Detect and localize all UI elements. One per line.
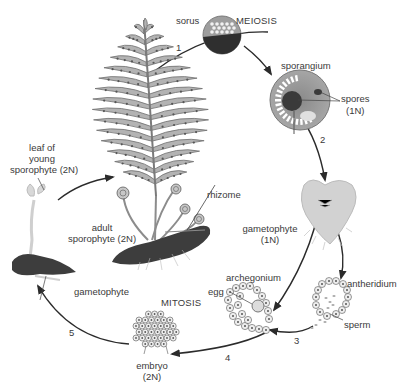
- pinna-right: [150, 108, 208, 120]
- small-gametophyte: [12, 254, 76, 275]
- sorus-dot: [103, 100, 105, 102]
- embryo: [133, 311, 179, 354]
- sorus-dot: [140, 136, 142, 138]
- adult-fern-frond: [92, 18, 208, 196]
- sperm-cell: [324, 297, 327, 299]
- label-leaf-line2: young: [10, 153, 74, 164]
- sorus-dot: [128, 37, 130, 39]
- sorus-dot: [167, 47, 169, 49]
- pinna-left: [104, 66, 147, 77]
- sorus-dot: [174, 58, 176, 60]
- sorus-dot: [161, 126, 163, 128]
- label-rhizome: rhizome: [207, 189, 241, 200]
- sorus-dot: [194, 100, 196, 102]
- label-leaf-line1: leaf of: [10, 142, 74, 153]
- pinna-left: [92, 108, 150, 120]
- pinna-left: [126, 35, 145, 45]
- gametophyte-heart: [301, 180, 356, 250]
- sorus-dot: [186, 79, 188, 81]
- pinna-left: [110, 56, 146, 67]
- label-adult-line1: adult: [62, 222, 142, 233]
- label-sorus: sorus: [176, 15, 199, 26]
- sorus-dot: [127, 124, 129, 126]
- sorus-dot: [169, 166, 171, 168]
- arrow-step-4: [172, 333, 265, 354]
- egg-cell: [252, 300, 264, 312]
- archegonium: [224, 282, 272, 333]
- label-spores-ploidy: (1N): [346, 105, 364, 116]
- pinna-left: [95, 87, 149, 98]
- sorus-dot: [182, 143, 184, 145]
- sperm-cell: [310, 327, 313, 329]
- sorus-dot: [132, 38, 134, 40]
- arrow-meiosis-to-sporangium: [244, 46, 271, 74]
- sorus-dot: [115, 122, 117, 124]
- pinna-right: [148, 77, 197, 88]
- sporangium: [270, 70, 340, 134]
- spore-dot: [225, 22, 229, 26]
- sorus-dot: [141, 147, 143, 149]
- step-number-1: 1: [176, 42, 181, 53]
- spore-dot: [225, 30, 229, 34]
- label-gametophyte-line1: gametophyte: [235, 223, 305, 234]
- sorus-dot: [173, 124, 175, 126]
- sorus-dot: [137, 166, 139, 168]
- sorus-dot: [160, 104, 162, 106]
- label-adult-sporophyte: adult sporophyte (2N): [62, 222, 142, 244]
- sorus-dot: [155, 72, 157, 74]
- sorus-dot: [137, 104, 139, 106]
- sorus-dot: [138, 62, 140, 64]
- sorus-dot: [136, 39, 138, 41]
- spore-dot: [212, 26, 216, 30]
- sorus-dot: [133, 50, 135, 52]
- sorus-dot: [131, 60, 133, 62]
- fern-life-cycle-diagram: sorus MEIOSIS sporangium spores (1N) lea…: [0, 0, 409, 392]
- pinna-right: [152, 129, 207, 141]
- spore-dot: [227, 26, 231, 30]
- sorus-dot: [167, 59, 169, 61]
- annulus-cell: [275, 99, 281, 101]
- sorus-dot: [172, 113, 174, 115]
- sorus-dot: [138, 126, 140, 128]
- sorus-dot: [155, 38, 157, 40]
- sorus-dot: [161, 168, 163, 170]
- sorus-dot: [193, 141, 195, 143]
- spore-dot: [220, 30, 224, 34]
- sorus-dot: [180, 91, 182, 93]
- sperm-cell: [331, 304, 334, 306]
- sorus-dot: [177, 164, 179, 166]
- sorus-dot: [126, 113, 128, 115]
- sorus-dot: [191, 89, 193, 91]
- sorus-dot: [126, 92, 128, 94]
- sorus-dot: [148, 179, 150, 181]
- step-number-2: 2: [320, 134, 325, 145]
- sorus-dot: [159, 37, 161, 39]
- sorus-dot: [120, 69, 122, 71]
- sorus-dot: [184, 122, 186, 124]
- sorus-dot: [103, 110, 105, 112]
- label-adult-line2: sporophyte (2N): [62, 233, 142, 244]
- sorus-dot: [105, 89, 107, 91]
- diagram-artwork: [0, 0, 409, 392]
- sorus-dot: [110, 141, 112, 143]
- sperm-cell: [326, 307, 329, 309]
- sorus-dot: [173, 135, 175, 137]
- sorus-dot: [184, 112, 186, 114]
- sorus-dot: [122, 47, 124, 49]
- sorus-dot: [104, 120, 106, 122]
- pinna-left: [93, 97, 150, 109]
- sorus-dot: [116, 58, 118, 60]
- sorus-dot: [129, 135, 131, 137]
- spore-dot: [215, 30, 219, 34]
- sorus-dot: [169, 92, 171, 94]
- sorus-dot: [171, 156, 173, 158]
- sperm-cell: [318, 319, 321, 321]
- sorus-dot: [129, 71, 131, 73]
- antheridium: [313, 278, 352, 320]
- sorus-dot: [156, 50, 158, 52]
- pinna-right: [146, 45, 174, 55]
- label-mitosis: MITOSIS: [161, 297, 201, 308]
- label-leaf-line3: sporophyte (2N): [10, 164, 74, 175]
- arrow-step-3: [270, 326, 313, 332]
- sorus-dot: [145, 168, 147, 170]
